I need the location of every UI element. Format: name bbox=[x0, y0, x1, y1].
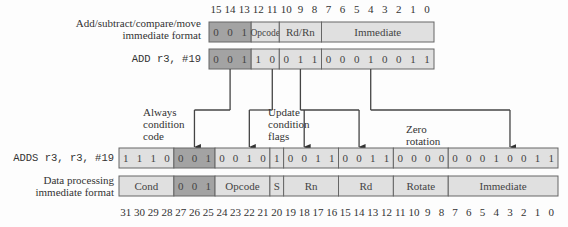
bit-value: 1 bbox=[329, 152, 335, 164]
field-label: S bbox=[274, 180, 280, 192]
field-label: Rotate bbox=[406, 180, 435, 192]
bit-value: 0 bbox=[164, 152, 170, 164]
field-label: Rd/Rn bbox=[286, 26, 315, 38]
bit-value: 1 bbox=[368, 53, 374, 65]
bit-value: 0 bbox=[213, 53, 219, 65]
bit-value: 0 bbox=[301, 152, 307, 164]
field-label: Opcode bbox=[250, 28, 280, 38]
bit-value: 1 bbox=[548, 152, 554, 164]
bit-value: 0 bbox=[326, 53, 332, 65]
bit-value: 0 bbox=[356, 152, 362, 164]
bit-number: 11 bbox=[395, 206, 406, 218]
bit-value: 0 bbox=[466, 152, 472, 164]
field-label: Immediate bbox=[354, 26, 401, 38]
bit-number: 8 bbox=[439, 206, 445, 218]
bit-value: 0 bbox=[270, 53, 276, 65]
annotation-line: Update bbox=[268, 106, 310, 118]
bit-number: 9 bbox=[425, 206, 431, 218]
bit-value: 1 bbox=[151, 152, 157, 164]
bit-value: 1 bbox=[255, 53, 261, 65]
top-instruction-label: ADD r3, #19 bbox=[60, 53, 201, 65]
bit-number: 26 bbox=[189, 206, 201, 218]
bit-number: 31 bbox=[120, 206, 131, 218]
field-label: Rn bbox=[305, 180, 318, 192]
bit-number: 20 bbox=[271, 206, 283, 218]
bit-number: 1 bbox=[535, 206, 541, 218]
bit-value: 1 bbox=[424, 53, 430, 65]
field-label: Cond bbox=[135, 180, 159, 192]
bit-value: 0 bbox=[227, 53, 233, 65]
fixed-bit-value: 0 bbox=[192, 180, 198, 192]
bit-value: 1 bbox=[123, 152, 129, 164]
bit-value: 0 bbox=[340, 53, 346, 65]
bit-number: 13 bbox=[367, 206, 379, 218]
bit-number: 7 bbox=[326, 3, 332, 15]
bit-number: 7 bbox=[452, 206, 458, 218]
bit-number: 21 bbox=[258, 206, 269, 218]
bit-number: 4 bbox=[368, 3, 374, 15]
bottom-format-label-line1: Data processing bbox=[0, 174, 114, 186]
bit-number: 12 bbox=[253, 3, 264, 15]
bit-number: 10 bbox=[281, 3, 293, 15]
bit-value: 0 bbox=[178, 152, 184, 164]
fixed-bit-value: 1 bbox=[241, 26, 247, 38]
bottom-format-label-line2: immediate format bbox=[0, 186, 114, 198]
bit-value: 0 bbox=[284, 53, 290, 65]
annotation-line: code bbox=[143, 130, 185, 142]
field-label: Opcode bbox=[225, 180, 259, 192]
bit-number: 5 bbox=[480, 206, 486, 218]
top-format-label-line1: Add/subtract/compare/move bbox=[40, 17, 201, 29]
bit-number: 10 bbox=[408, 206, 420, 218]
bit-value: 1 bbox=[315, 152, 321, 164]
bit-number: 5 bbox=[354, 3, 360, 15]
annotation-line: condition bbox=[268, 118, 310, 130]
bit-value: 0 bbox=[425, 152, 431, 164]
bit-value: 0 bbox=[382, 53, 388, 65]
bit-value: 1 bbox=[494, 152, 500, 164]
bit-value: 0 bbox=[521, 152, 527, 164]
bit-number: 2 bbox=[396, 3, 402, 15]
annotation-line: condition bbox=[143, 118, 185, 130]
bit-number: 25 bbox=[203, 206, 215, 218]
bit-value: 1 bbox=[241, 53, 247, 65]
annotation-line: Always bbox=[143, 106, 185, 118]
bit-value: 0 bbox=[439, 152, 445, 164]
bit-number: 29 bbox=[148, 206, 160, 218]
bit-number: 16 bbox=[326, 206, 338, 218]
bit-value: 0 bbox=[233, 152, 239, 164]
annotation-update-flags: Update condition flags bbox=[268, 106, 310, 142]
bit-number: 17 bbox=[312, 206, 324, 218]
bit-value: 0 bbox=[343, 152, 349, 164]
bit-value: 0 bbox=[480, 152, 486, 164]
bit-value: 0 bbox=[397, 152, 403, 164]
bit-value: 1 bbox=[410, 53, 416, 65]
bit-value: 1 bbox=[384, 152, 390, 164]
bit-number: 6 bbox=[466, 206, 472, 218]
bit-number: 2 bbox=[521, 206, 527, 218]
bit-number: 15 bbox=[340, 206, 352, 218]
bit-number: 18 bbox=[299, 206, 311, 218]
bit-value: 1 bbox=[370, 152, 376, 164]
bit-value: 0 bbox=[411, 152, 417, 164]
fixed-bit-value: 1 bbox=[205, 180, 211, 192]
field-label: Immediate bbox=[480, 180, 527, 192]
bottom-instruction-label: ADDS r3, r3, #19 bbox=[0, 152, 114, 164]
bit-number: 13 bbox=[239, 3, 251, 15]
bit-number: 11 bbox=[267, 3, 278, 15]
bit-number: 3 bbox=[382, 3, 388, 15]
bit-number: 0 bbox=[548, 206, 554, 218]
annotation-line: Zero bbox=[406, 123, 440, 135]
annotation-zero-rotation: Zero rotation bbox=[406, 123, 440, 147]
field-label: Rd bbox=[360, 180, 373, 192]
annotation-always-condition: Always condition code bbox=[143, 106, 185, 142]
bit-number: 24 bbox=[216, 206, 228, 218]
bit-number: 15 bbox=[211, 3, 223, 15]
bit-number: 28 bbox=[162, 206, 174, 218]
fixed-bit-value: 0 bbox=[178, 180, 184, 192]
top-instruction-field-box bbox=[322, 49, 435, 69]
bit-value: 1 bbox=[137, 152, 143, 164]
bit-number: 4 bbox=[494, 206, 500, 218]
bit-number: 30 bbox=[134, 206, 146, 218]
bit-value: 1 bbox=[535, 152, 541, 164]
bit-number: 12 bbox=[381, 206, 392, 218]
